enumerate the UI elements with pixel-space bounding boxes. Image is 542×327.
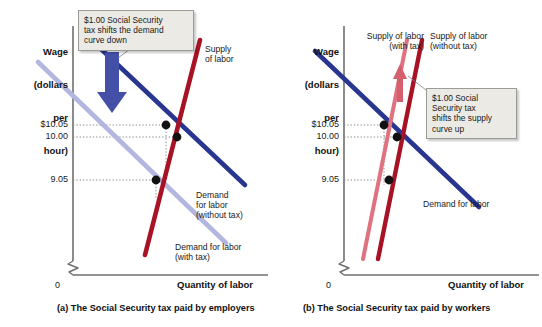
panel-a-demand-with-tax-label: Demand for labor (with tax) xyxy=(175,242,241,262)
panel-b-caption: (b) The Social Security tax paid by work… xyxy=(303,303,490,313)
equilibrium-point-905 xyxy=(385,176,394,185)
panel-a: Wage (dollars per hour) $10.05 10.00 9.0… xyxy=(0,0,271,327)
panel-b-ytick-1005: $10.05 xyxy=(283,119,339,129)
demand-without-tax-curve xyxy=(100,48,245,185)
panel-b-supply-with-tax-label: Supply of labor (with tax) xyxy=(328,31,424,51)
panel-a-axes xyxy=(68,26,268,275)
panel-a-y-axis-title: Wage (dollars per hour) xyxy=(12,24,68,178)
social-security-tax-figure: Wage (dollars per hour) $10.05 10.00 9.0… xyxy=(0,0,542,327)
panel-b-supply-without-tax-label: Supply of labor (without tax) xyxy=(430,31,487,51)
panel-b-callout: $1.00 Social Security tax shifts the sup… xyxy=(426,88,517,139)
equilibrium-point-1005 xyxy=(380,121,389,130)
y-axis-title-line-1: Wage xyxy=(12,46,68,57)
equilibrium-point-1000 xyxy=(173,133,182,142)
panel-a-ytick-1005: $10.05 xyxy=(12,119,68,129)
supply-of-labor-curve xyxy=(145,40,200,255)
panel-a-callout: $1.00 Social Security tax shifts the dem… xyxy=(78,10,194,51)
panel-a-caption: (a) The Social Security tax paid by empl… xyxy=(57,303,255,313)
y-axis-title-line-4: hour) xyxy=(12,145,68,156)
panel-b-demand-label: Demand for labor xyxy=(423,199,489,209)
equilibrium-point-1000 xyxy=(393,133,402,142)
panel-b-ytick-905: 9.05 xyxy=(283,174,339,184)
panel-a-supply-label: Supply of labor xyxy=(205,44,234,64)
equilibrium-point-1005 xyxy=(162,121,171,130)
y-axis-title-line-2: (dollars xyxy=(283,79,339,90)
equilibrium-point-905 xyxy=(152,176,161,185)
panel-b-origin-label: 0 xyxy=(326,280,331,290)
panel-b-ytick-1000: 10.00 xyxy=(283,131,339,141)
panel-a-x-axis-title: Quantity of labor xyxy=(177,279,253,290)
down-arrow-icon xyxy=(97,52,127,113)
y-axis-title-line-2: (dollars xyxy=(12,79,68,90)
panel-b-x-axis-title: Quantity of labor xyxy=(448,279,524,290)
panel-a-origin-label: 0 xyxy=(55,280,60,290)
panel-a-ytick-1000: 10.00 xyxy=(12,131,68,141)
panel-b: Wage (dollars per hour) $10.05 10.00 9.0… xyxy=(271,0,542,327)
panel-a-demand-without-tax-label: Demand for labor (without tax) xyxy=(196,190,243,220)
y-axis-title-line-4: hour) xyxy=(283,145,339,156)
panel-a-ytick-905: 9.05 xyxy=(12,174,68,184)
